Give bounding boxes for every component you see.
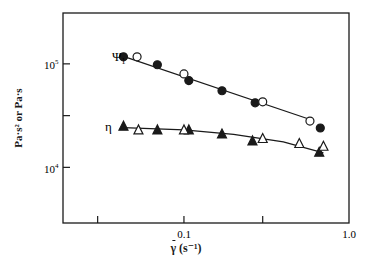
ytick-label-1e4: 104 <box>44 162 59 175</box>
psi1-filled-marker <box>251 99 259 107</box>
gamma-dot-symbol: γ <box>170 241 176 256</box>
psi1-filled-marker <box>218 87 226 95</box>
psi1-open-marker <box>180 70 188 78</box>
eta-open-marker <box>319 141 328 150</box>
axis-ticks <box>63 64 263 223</box>
x-axis-label: γ (s⁻¹) <box>170 241 201 256</box>
eta-open-marker <box>295 139 304 148</box>
fit-line <box>123 56 312 120</box>
ytick-label-1e5: 105 <box>44 58 59 71</box>
psi1-open-marker <box>306 117 314 125</box>
psi1-filled-marker <box>153 61 161 69</box>
eta-annotation: η <box>105 119 112 134</box>
data-markers <box>119 53 328 156</box>
psi1-filled-marker <box>316 124 324 132</box>
chart-plot: Ψ1 η 105 104 0.1 1.0 <box>0 0 372 268</box>
xtick-label-1.0: 1.0 <box>342 228 356 240</box>
xtick-label-0.1: 0.1 <box>177 228 191 240</box>
psi1-annotation: Ψ1 <box>112 49 126 66</box>
eta-open-marker <box>134 125 143 134</box>
psi1-open-marker <box>259 98 267 106</box>
eta-filled-marker <box>119 121 128 130</box>
psi1-open-marker <box>133 53 141 61</box>
